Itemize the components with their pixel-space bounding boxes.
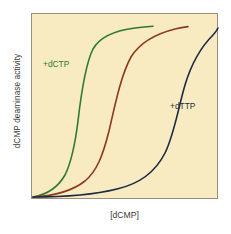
curve-dttp [33, 28, 218, 197]
figure-container: +dCTP +dTTP dCMP deaminase activity [dCM… [0, 0, 231, 234]
x-axis-label: [dCMP] [31, 210, 218, 220]
curve-middle [33, 27, 188, 197]
y-axis-label: dCMP deaminase activity [12, 21, 22, 181]
curve-label-dttp: +dTTP [170, 101, 195, 111]
curve-label-dctp: +dCTP [43, 59, 69, 69]
